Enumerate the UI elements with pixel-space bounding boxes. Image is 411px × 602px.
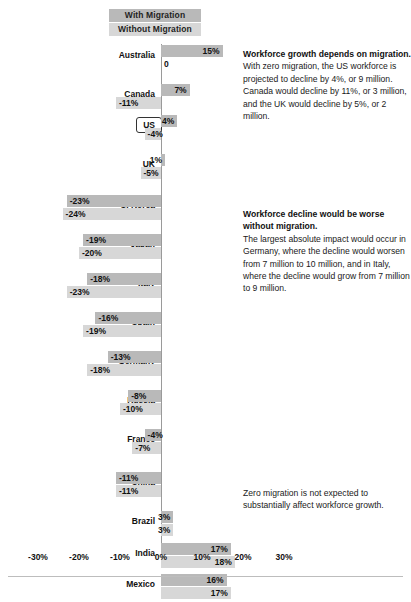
bar-without-migration: -20% xyxy=(79,247,161,259)
annotation-migration-growth: Workforce growth depends on migration. W… xyxy=(243,48,411,122)
bar-with-migration: 3% xyxy=(161,511,173,523)
annotation-body: Zero migration is not expected to substa… xyxy=(243,487,411,512)
bar-without-migration: -23% xyxy=(67,286,161,298)
bar-without-migration: -24% xyxy=(63,208,161,220)
bar-with-migration: -11% xyxy=(116,472,161,484)
bar-with-migration: 1% xyxy=(161,154,165,166)
bar-without-migration: -11% xyxy=(116,97,161,109)
chart-row: UK1%-5% xyxy=(0,153,411,182)
annotation-body: The largest absolute impact would occur … xyxy=(243,233,411,295)
legend-item-with-migration: With Migration xyxy=(109,9,201,22)
annotation-headline: Workforce growth depends on migration. xyxy=(243,48,411,60)
bar-without-migration: -5% xyxy=(141,167,162,179)
axis-tick: 20% xyxy=(234,552,251,562)
bar-without-migration: -18% xyxy=(87,364,161,376)
chart-row: Mexico16%17% xyxy=(0,573,411,602)
category-label-australia: Australia xyxy=(119,50,155,60)
bar-with-migration: -8% xyxy=(128,390,161,402)
axis-bottom-rule xyxy=(8,576,403,577)
bar-with-migration: 7% xyxy=(161,84,190,96)
category-label-brazil: Brazil xyxy=(132,516,155,526)
bar-with-migration: 15% xyxy=(161,45,223,57)
annotation-headline: Workforce decline would be worse without… xyxy=(243,208,411,233)
bar-without-migration: -19% xyxy=(83,325,161,337)
bar-without-migration: 0 xyxy=(161,58,191,70)
axis-tick: -30% xyxy=(28,552,48,562)
axis-tick: -20% xyxy=(69,552,89,562)
bar-without-migration: -4% xyxy=(145,128,161,140)
chart-row: Russia-8%-10% xyxy=(0,389,411,418)
legend-item-without-migration: Without Migration xyxy=(109,23,201,36)
axis-tick: 0% xyxy=(155,552,167,562)
bar-without-migration: 17% xyxy=(161,587,231,599)
bar-with-migration: -13% xyxy=(108,351,161,363)
bar-without-migration: -10% xyxy=(120,403,161,415)
bar-with-migration: -4% xyxy=(145,429,161,441)
axis-tick: -10% xyxy=(110,552,130,562)
chart-row: Germany-13%-18% xyxy=(0,350,411,379)
bar-without-migration: -7% xyxy=(132,442,161,454)
annotation-zero-migration: Zero migration is not expected to substa… xyxy=(243,487,411,512)
chart-row: France-4%-7% xyxy=(0,428,411,457)
bar-with-migration: -19% xyxy=(83,234,161,246)
annotation-decline-worse: Workforce decline would be worse without… xyxy=(243,208,411,295)
bar-without-migration: 3% xyxy=(161,524,173,536)
chart-row: Spain-16%-19% xyxy=(0,311,411,340)
bar-with-migration: 4% xyxy=(161,115,177,127)
category-label-mexico: Mexico xyxy=(126,579,155,589)
bar-without-migration: -11% xyxy=(116,485,161,497)
bar-with-migration: -23% xyxy=(67,195,161,207)
bar-with-migration: -18% xyxy=(87,273,161,285)
axis-tick: 30% xyxy=(275,552,292,562)
chart-row: Brazil3%3% xyxy=(0,510,411,539)
axis-tick: 10% xyxy=(193,552,210,562)
annotation-body: With zero migration, the US workforce is… xyxy=(243,60,411,122)
bar-with-migration: -16% xyxy=(95,312,161,324)
x-axis: -30%-20%-10%0%10%20%30% xyxy=(0,552,411,568)
chart-legend: With Migration Without Migration xyxy=(109,9,201,36)
